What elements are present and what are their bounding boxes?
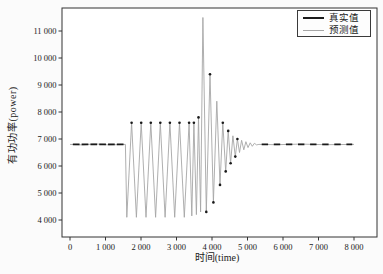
x-tick-label: 0 (68, 242, 72, 252)
plot-border (62, 8, 377, 237)
actual-marker (193, 122, 196, 125)
y-tick-label: 5 000 (37, 188, 56, 198)
y-tick-label: 6 000 (37, 161, 56, 171)
x-tick-label: 1 000 (96, 242, 115, 252)
actual-marker (130, 122, 133, 125)
actual-marker (197, 116, 200, 119)
actual-marker (212, 201, 215, 204)
legend-label-predicted: 预测值 (329, 24, 359, 36)
y-tick-label: 4 000 (37, 215, 56, 225)
x-axis-title: 时间(time) (117, 249, 317, 263)
actual-marker (169, 122, 172, 125)
actual-marker (219, 184, 222, 187)
actual-marker (150, 122, 153, 125)
power-forecast-figure: 4 0005 0006 0007 0008 0009 00010 00011 0… (0, 0, 383, 274)
y-tick-label: 11 000 (33, 26, 56, 36)
actual-marker (159, 122, 162, 125)
predicted-line-sample (303, 30, 324, 31)
legend-item-predicted: 预测值 (298, 24, 370, 36)
actual-marker (234, 155, 237, 158)
actual-marker (236, 138, 239, 141)
actual-marker (188, 122, 191, 125)
legend: 真实值 预测值 (297, 10, 371, 37)
y-axis-title: 有功功率(power) (4, 40, 18, 210)
actual-marker (209, 73, 212, 76)
actual-marker (140, 122, 143, 125)
y-tick-label: 8 000 (37, 107, 56, 117)
actual-marker (224, 170, 227, 173)
actual-marker (229, 162, 232, 165)
x-tick-label: 8 000 (344, 242, 363, 252)
actual-marker (227, 130, 230, 133)
actual-marker (178, 122, 181, 125)
power-chart-canvas: 4 0005 0006 0007 0008 0009 00010 00011 0… (0, 0, 383, 274)
actual-marker (205, 211, 208, 214)
y-tick-label: 9 000 (37, 80, 56, 90)
actual-marker (222, 122, 225, 125)
y-tick-label: 10 000 (33, 53, 56, 63)
actual-line-sample (303, 17, 324, 19)
legend-label-actual: 真实值 (329, 12, 359, 24)
y-tick-label: 7 000 (37, 134, 56, 144)
legend-item-actual: 真实值 (298, 12, 370, 24)
